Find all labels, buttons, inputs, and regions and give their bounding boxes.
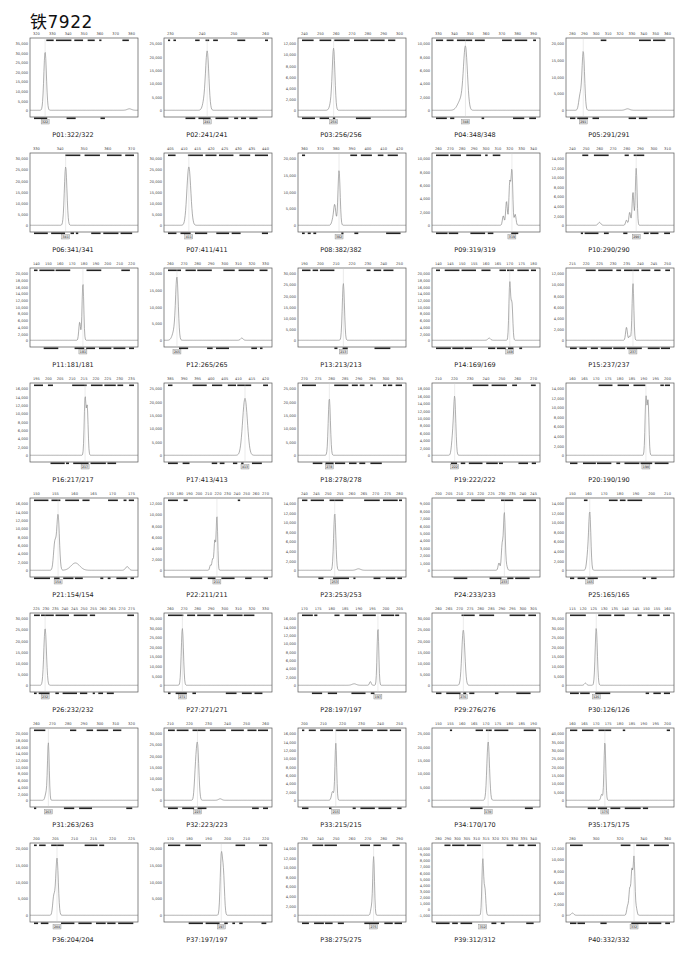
svg-text:15,000: 15,000 (149, 766, 162, 770)
electropherogram-panel: 14014515015516016517017518002,0004,0006,… (410, 258, 540, 373)
svg-text:253: 253 (332, 580, 338, 584)
chart-row: 15015516016517017502,0004,0006,0008,0001… (8, 488, 678, 603)
svg-text:9,000: 9,000 (420, 853, 431, 857)
svg-text:10,000: 10,000 (417, 417, 430, 421)
svg-text:315: 315 (483, 837, 490, 841)
electropherogram-chart: 32033034035036037038005,00010,00015,0002… (8, 28, 140, 143)
svg-text:190: 190 (643, 465, 649, 469)
svg-text:2,000: 2,000 (18, 333, 29, 337)
svg-text:290: 290 (637, 147, 645, 151)
svg-text:0: 0 (428, 799, 431, 803)
svg-text:5,000: 5,000 (152, 441, 163, 445)
svg-text:170: 170 (601, 492, 609, 496)
svg-text:2,000: 2,000 (554, 215, 565, 219)
svg-text:10,000: 10,000 (551, 76, 564, 80)
svg-text:14,000: 14,000 (15, 292, 28, 296)
panel-label: P22:211/211 (142, 591, 272, 599)
svg-text:245: 245 (651, 262, 658, 266)
panel-label: P26:232/232 (8, 706, 138, 714)
svg-text:291: 291 (580, 120, 586, 124)
svg-text:14,000: 14,000 (551, 157, 564, 161)
svg-text:4,000: 4,000 (420, 539, 431, 543)
svg-text:180: 180 (617, 492, 625, 496)
electropherogram-chart: 20021022023024025002,0004,0006,0008,0001… (276, 718, 408, 833)
svg-text:10,000: 10,000 (15, 306, 28, 310)
svg-text:8,000: 8,000 (286, 766, 297, 770)
svg-text:10,000: 10,000 (149, 202, 162, 206)
svg-text:370: 370 (317, 147, 325, 151)
svg-text:5,000: 5,000 (152, 788, 163, 792)
svg-text:230: 230 (224, 492, 232, 496)
electropherogram-chart: 26027028029030031032002,0004,0006,0008,0… (8, 718, 140, 833)
svg-text:0: 0 (160, 684, 163, 688)
svg-text:170: 170 (109, 492, 117, 496)
svg-text:415: 415 (194, 147, 201, 151)
svg-text:10,000: 10,000 (15, 881, 28, 885)
svg-text:0: 0 (160, 339, 163, 343)
svg-text:0: 0 (562, 569, 565, 573)
svg-text:240: 240 (520, 492, 528, 496)
svg-text:310: 310 (494, 147, 502, 151)
svg-text:420: 420 (396, 147, 404, 151)
svg-text:30,000: 30,000 (15, 52, 28, 56)
svg-text:5,000: 5,000 (152, 322, 163, 326)
svg-text:6,000: 6,000 (18, 319, 29, 323)
chart-row: 32033034035036037038005,00010,00015,0002… (8, 28, 678, 143)
svg-text:290: 290 (633, 235, 639, 239)
svg-text:215: 215 (333, 810, 339, 814)
svg-text:3,000: 3,000 (420, 547, 431, 551)
svg-text:10,000: 10,000 (283, 866, 296, 870)
svg-text:170: 170 (483, 722, 491, 726)
svg-text:330: 330 (628, 32, 636, 36)
svg-text:180: 180 (186, 837, 194, 841)
svg-text:15,000: 15,000 (149, 414, 162, 418)
svg-text:5,000: 5,000 (286, 207, 297, 211)
svg-text:185: 185 (342, 607, 349, 611)
svg-text:8,000: 8,000 (286, 531, 297, 535)
electropherogram-panel: 26027028029030031032033005,00010,00015,0… (142, 258, 272, 373)
panel-label: P21:154/154 (8, 591, 138, 599)
svg-text:25,000: 25,000 (15, 61, 28, 65)
svg-text:190: 190 (632, 492, 640, 496)
svg-text:350: 350 (652, 32, 660, 36)
svg-text:20,000: 20,000 (149, 56, 162, 60)
svg-text:8,000: 8,000 (286, 876, 297, 880)
svg-text:20,000: 20,000 (149, 646, 162, 650)
svg-text:14,000: 14,000 (551, 502, 564, 506)
svg-text:260: 260 (349, 492, 357, 496)
panel-label: P05:291/291 (544, 131, 674, 139)
svg-text:115: 115 (569, 607, 576, 611)
electropherogram-panel: 21522022523023524024525002,0004,0006,000… (544, 258, 674, 373)
svg-text:20,000: 20,000 (551, 42, 564, 46)
svg-text:180: 180 (617, 377, 625, 381)
svg-text:210: 210 (205, 492, 213, 496)
svg-text:2,000: 2,000 (420, 211, 431, 215)
svg-text:4,000: 4,000 (18, 786, 29, 790)
svg-text:270: 270 (262, 492, 270, 496)
svg-text:250: 250 (317, 32, 325, 36)
svg-text:6,000: 6,000 (286, 540, 297, 544)
svg-text:220: 220 (92, 377, 100, 381)
svg-text:245: 245 (313, 492, 320, 496)
svg-text:15,000: 15,000 (149, 289, 162, 293)
svg-text:120: 120 (580, 607, 588, 611)
svg-text:18,000: 18,000 (417, 387, 430, 391)
svg-text:170: 170 (301, 607, 309, 611)
svg-text:30,000: 30,000 (283, 272, 296, 276)
panel-label: P24:233/233 (410, 591, 540, 599)
svg-text:14,000: 14,000 (283, 741, 296, 745)
svg-text:305: 305 (396, 377, 403, 381)
svg-text:10,000: 10,000 (149, 665, 162, 669)
svg-text:15,000: 15,000 (551, 655, 564, 659)
svg-text:14,000: 14,000 (417, 292, 430, 296)
svg-text:20,000: 20,000 (149, 755, 162, 759)
svg-text:150: 150 (643, 607, 651, 611)
panel-label: P32:223/223 (142, 821, 272, 829)
svg-text:320: 320 (128, 722, 136, 726)
svg-text:175: 175 (605, 377, 612, 381)
svg-text:5,000: 5,000 (152, 897, 163, 901)
svg-text:413: 413 (242, 465, 248, 469)
svg-text:290: 290 (445, 837, 453, 841)
electropherogram-panel: 28029030031032033034035036005,00010,0001… (544, 28, 674, 143)
svg-text:340: 340 (640, 837, 648, 841)
